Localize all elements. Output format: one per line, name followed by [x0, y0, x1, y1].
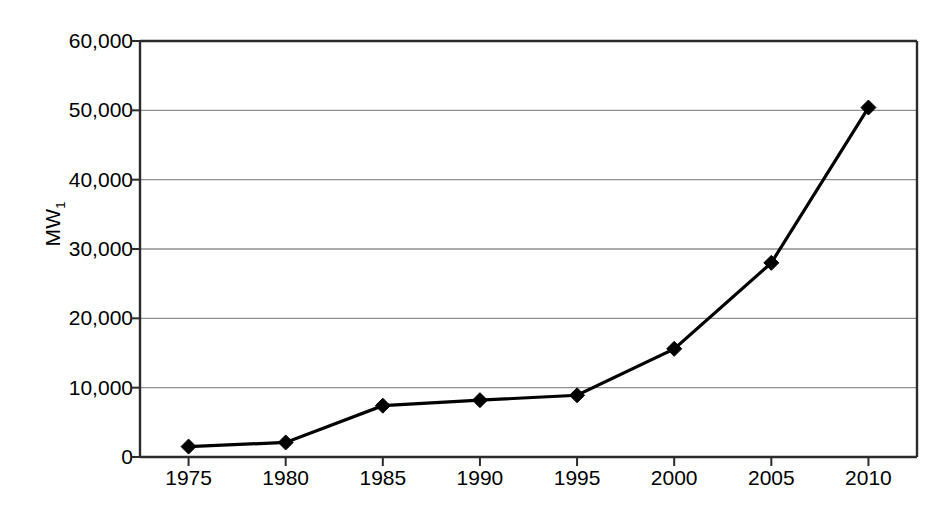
data-point-marker — [861, 100, 876, 115]
data-point-marker — [472, 393, 487, 408]
data-point-markers — [181, 100, 876, 454]
y-axis-ticks — [131, 41, 140, 457]
data-line-series — [189, 108, 869, 447]
x-axis-ticks — [189, 457, 869, 466]
plot-area — [0, 0, 943, 518]
data-point-marker — [181, 439, 196, 454]
data-point-marker — [375, 398, 390, 413]
series-polyline — [189, 108, 869, 447]
chart-container: MW1 010,00020,00030,00040,00050,00060,00… — [0, 0, 943, 518]
data-point-marker — [278, 435, 293, 450]
data-point-marker — [570, 388, 585, 403]
